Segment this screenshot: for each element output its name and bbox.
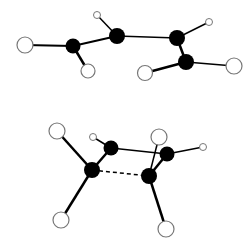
hydrogen-atom-h1: [17, 37, 33, 53]
carbon-atom-c7: [160, 147, 175, 162]
bottom-molecule-bonds: [57, 131, 203, 229]
hydrogen-atom-h6: [226, 58, 242, 74]
carbon-atom-c3: [169, 30, 185, 46]
carbon-atom-c2: [109, 28, 125, 44]
hydrogen-atom-h3: [94, 12, 101, 19]
bottom-molecule: [49, 123, 207, 237]
top-molecule: [17, 12, 242, 81]
hydrogen-atom-h2: [81, 64, 95, 78]
hydrogen-atom-h10: [200, 144, 207, 151]
top-molecule-bonds: [25, 15, 234, 73]
hydrogen-atom-h9: [151, 129, 167, 145]
bond-c2-c3: [117, 36, 177, 38]
forming-bond-c6-c8: [92, 170, 149, 176]
carbon-atom-c8: [141, 168, 157, 184]
molecular-diagram: [0, 0, 251, 250]
bottom-molecule-atoms: [49, 123, 207, 237]
carbon-atom-c1: [66, 39, 81, 54]
carbon-atom-c4: [178, 54, 194, 70]
carbon-atom-c5: [104, 141, 119, 156]
hydrogen-atom-h12: [158, 221, 174, 237]
hydrogen-atom-h5: [138, 66, 153, 81]
hydrogen-atom-h8: [90, 134, 97, 141]
hydrogen-atom-h4: [206, 19, 213, 26]
hydrogen-atom-h11: [53, 212, 69, 228]
bond-c5-c7: [111, 148, 167, 154]
carbon-atom-c6: [84, 162, 100, 178]
hydrogen-atom-h7: [49, 123, 65, 139]
bond-c6-h11: [61, 170, 92, 220]
